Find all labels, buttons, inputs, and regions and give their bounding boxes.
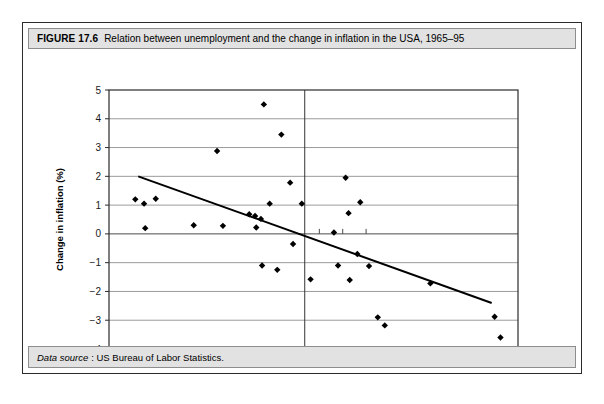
y-axis-tick-label: 3 <box>95 142 101 153</box>
y-axis-tick-label: −1 <box>90 257 102 268</box>
figure-container: FIGURE 17.6 Relation between unemploymen… <box>22 22 582 374</box>
y-axis-tick-label: 4 <box>95 113 101 124</box>
data-source-text: : US Bureau of Labor Statistics. <box>91 352 224 363</box>
y-axis-tick-label: −3 <box>90 315 102 326</box>
chart-plot-area: 543210−1−2−3−4345678910Unemployment rate… <box>23 49 583 349</box>
y-axis-tick-label: 2 <box>95 171 101 182</box>
y-axis-title: Change in inflation (%) <box>54 168 65 271</box>
scatter-chart: 543210−1−2−3−4345678910Unemployment rate… <box>23 49 583 349</box>
y-axis-tick-label: 0 <box>95 228 101 239</box>
plot-background <box>109 90 518 349</box>
y-axis-tick-label: −2 <box>90 286 102 297</box>
figure-footer: Data source : US Bureau of Labor Statist… <box>28 346 576 368</box>
y-axis-tick-label: 1 <box>95 200 101 211</box>
figure-number: FIGURE 17.6 <box>37 33 98 44</box>
figure-title: Relation between unemployment and the ch… <box>104 33 464 44</box>
data-source-label: Data source <box>37 352 88 363</box>
figure-header: FIGURE 17.6 Relation between unemploymen… <box>28 28 576 49</box>
y-axis-tick-label: 5 <box>95 85 101 96</box>
